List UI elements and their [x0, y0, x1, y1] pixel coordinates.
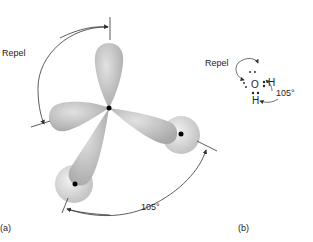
- panel-b-label: (b): [238, 223, 249, 233]
- repel-label-a: Repel: [2, 48, 26, 58]
- b-repel-arrow: [238, 58, 258, 63]
- axis-line-left: [31, 121, 50, 127]
- angle-label-a: 105°: [141, 202, 160, 212]
- panel-a-label: (a): [0, 223, 11, 233]
- atom-oxygen: O: [251, 79, 259, 90]
- b-angle-arrow-down: [260, 99, 278, 102]
- hydrogen-nucleus-left: [73, 182, 78, 187]
- b-repel-arrow-2: [236, 63, 244, 80]
- atom-hydrogen-2: H: [252, 95, 259, 106]
- repel-label-b: Repel: [205, 58, 229, 68]
- angle-label-b: 105°: [276, 88, 295, 98]
- lobe-right: [109, 108, 177, 144]
- hydrogen-nucleus-right: [179, 132, 184, 137]
- lobe-top: [95, 43, 123, 108]
- oxygen-nucleus: [107, 106, 112, 111]
- axis-line-right: [197, 141, 217, 151]
- repel-arc-start-arrow: [60, 27, 108, 38]
- atom-hydrogen-1: H: [268, 77, 275, 88]
